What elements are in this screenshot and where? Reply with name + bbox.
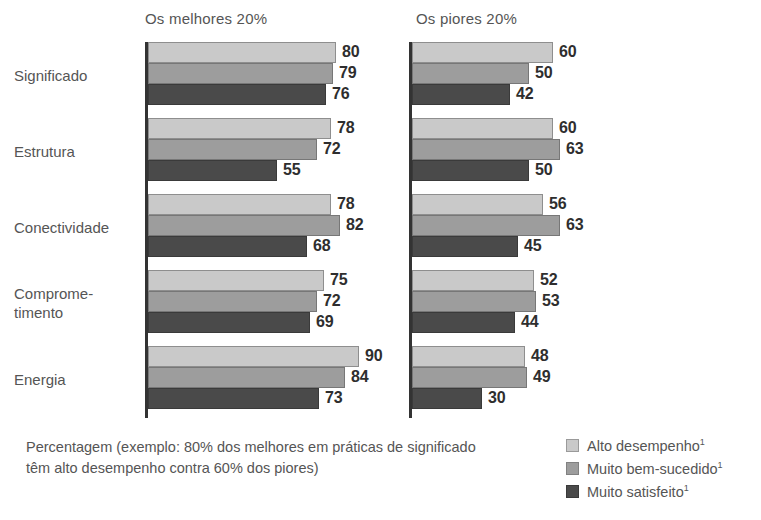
category-label: Estrutura bbox=[14, 142, 140, 161]
bar-row: 69 bbox=[148, 312, 370, 333]
bar-value-label: 69 bbox=[316, 313, 333, 331]
bar[interactable] bbox=[412, 63, 529, 84]
bar-row: 78 bbox=[148, 118, 391, 139]
bar-value-label: 79 bbox=[339, 64, 356, 82]
bar-row: 42 bbox=[412, 84, 570, 105]
chart-footnote: Percentagem (exemplo: 80% dos melhores e… bbox=[26, 437, 486, 479]
bar-row: 76 bbox=[148, 84, 386, 105]
bar-row: 30 bbox=[412, 388, 542, 409]
bar[interactable] bbox=[412, 118, 553, 139]
bar[interactable] bbox=[148, 236, 307, 257]
bar[interactable] bbox=[148, 194, 331, 215]
bar-value-label: 44 bbox=[521, 313, 538, 331]
category-label: Energia bbox=[14, 370, 140, 389]
bar[interactable] bbox=[412, 291, 536, 312]
bar-row: 82 bbox=[148, 215, 400, 236]
bar-row: 50 bbox=[412, 160, 589, 181]
bar-value-label: 76 bbox=[332, 85, 349, 103]
bar[interactable] bbox=[148, 63, 333, 84]
legend-swatch-icon bbox=[566, 485, 579, 498]
bar-row: 60 bbox=[412, 118, 613, 139]
bar-row: 80 bbox=[148, 42, 396, 63]
bar-row: 79 bbox=[148, 63, 393, 84]
bar-value-label: 60 bbox=[559, 119, 576, 137]
bar[interactable] bbox=[412, 194, 543, 215]
bar[interactable] bbox=[412, 367, 527, 388]
legend-label: Muito bem-sucedido1 bbox=[587, 460, 723, 477]
bar-row: 90 bbox=[148, 346, 419, 367]
category-label: Significado bbox=[14, 66, 140, 85]
bar[interactable] bbox=[412, 270, 534, 291]
category-label: Conectividade bbox=[14, 218, 140, 237]
legend-item[interactable]: Muito satisfeito1 bbox=[566, 480, 723, 503]
legend-footnote-marker: 1 bbox=[684, 483, 689, 493]
bar-row: 72 bbox=[148, 139, 377, 160]
bar-value-label: 63 bbox=[566, 216, 583, 234]
legend-swatch-icon bbox=[566, 439, 579, 452]
legend-footnote-marker: 1 bbox=[700, 437, 705, 447]
bar-value-label: 72 bbox=[323, 292, 340, 310]
category-label-line: Significado bbox=[14, 66, 140, 85]
bar-value-label: 90 bbox=[365, 347, 382, 365]
bar[interactable] bbox=[148, 160, 277, 181]
bar-row: 75 bbox=[148, 270, 384, 291]
bar-value-label: 80 bbox=[342, 43, 359, 61]
bar[interactable] bbox=[148, 84, 326, 105]
bar[interactable] bbox=[412, 160, 529, 181]
bar[interactable] bbox=[148, 118, 331, 139]
bar[interactable] bbox=[148, 42, 336, 63]
bar-row: 56 bbox=[412, 194, 603, 215]
bar-value-label: 55 bbox=[283, 161, 300, 179]
chart-legend: Alto desempenho1Muito bem-sucedido1Muito… bbox=[566, 434, 723, 503]
bar[interactable] bbox=[148, 312, 310, 333]
bar-row: 52 bbox=[412, 270, 594, 291]
chart-plot-area: SignificadoEstruturaConectividadeComprom… bbox=[0, 42, 761, 420]
bar-row: 60 bbox=[412, 42, 613, 63]
bar-row: 72 bbox=[148, 291, 377, 312]
panel-title-worst: Os piores 20% bbox=[416, 10, 517, 27]
bar-row: 63 bbox=[412, 215, 620, 236]
bar[interactable] bbox=[412, 388, 482, 409]
bar-row: 68 bbox=[148, 236, 367, 257]
bar[interactable] bbox=[148, 215, 340, 236]
bar[interactable] bbox=[148, 388, 319, 409]
legend-item[interactable]: Muito bem-sucedido1 bbox=[566, 457, 723, 480]
bar-value-label: 63 bbox=[566, 140, 583, 158]
bar[interactable] bbox=[148, 346, 359, 367]
bar[interactable] bbox=[412, 139, 560, 160]
bar-row: 78 bbox=[148, 194, 391, 215]
bar[interactable] bbox=[148, 367, 345, 388]
bar-value-label: 60 bbox=[559, 43, 576, 61]
bar-value-label: 73 bbox=[325, 389, 342, 407]
bar[interactable] bbox=[148, 270, 324, 291]
bar-value-label: 75 bbox=[330, 271, 347, 289]
bar-value-label: 50 bbox=[535, 64, 552, 82]
bar-row: 73 bbox=[148, 388, 379, 409]
legend-label-text: Muito satisfeito bbox=[587, 484, 684, 500]
bar-value-label: 72 bbox=[323, 140, 340, 158]
bar[interactable] bbox=[148, 291, 317, 312]
bar-row: 53 bbox=[412, 291, 596, 312]
bar[interactable] bbox=[412, 346, 525, 367]
bar-value-label: 52 bbox=[540, 271, 557, 289]
bar-row: 49 bbox=[412, 367, 587, 388]
legend-footnote-marker: 1 bbox=[718, 460, 723, 470]
bar-value-label: 84 bbox=[351, 368, 368, 386]
bar[interactable] bbox=[412, 84, 510, 105]
bar[interactable] bbox=[148, 139, 317, 160]
bar[interactable] bbox=[412, 312, 515, 333]
bar-row: 50 bbox=[412, 63, 589, 84]
bar-row: 45 bbox=[412, 236, 578, 257]
legend-label-text: Alto desempenho bbox=[587, 438, 700, 454]
bar[interactable] bbox=[412, 42, 553, 63]
bar[interactable] bbox=[412, 236, 518, 257]
category-label-line: Comprome- bbox=[14, 284, 140, 303]
bar-value-label: 56 bbox=[549, 195, 566, 213]
category-label-line: Estrutura bbox=[14, 142, 140, 161]
bar-row: 48 bbox=[412, 346, 585, 367]
bar-row: 55 bbox=[148, 160, 337, 181]
legend-item[interactable]: Alto desempenho1 bbox=[566, 434, 723, 457]
bar-value-label: 68 bbox=[313, 237, 330, 255]
bar[interactable] bbox=[412, 215, 560, 236]
bar-value-label: 42 bbox=[516, 85, 533, 103]
